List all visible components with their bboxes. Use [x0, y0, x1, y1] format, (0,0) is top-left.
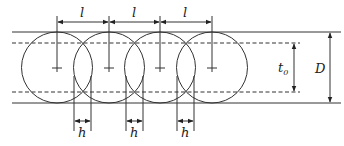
overlap-label-2: h: [130, 125, 138, 140]
thickness-label: t0: [278, 60, 288, 77]
diameter-label: D: [314, 61, 326, 76]
pitch-label-3: l: [183, 5, 187, 20]
overlap-label-1: h: [78, 125, 86, 140]
overlap-label-3: h: [181, 125, 189, 140]
pitch-label-1: l: [80, 5, 84, 20]
weld-overlap-diagram: l l l h h h t0 D: [0, 0, 344, 146]
pitch-label-2: l: [132, 5, 136, 20]
